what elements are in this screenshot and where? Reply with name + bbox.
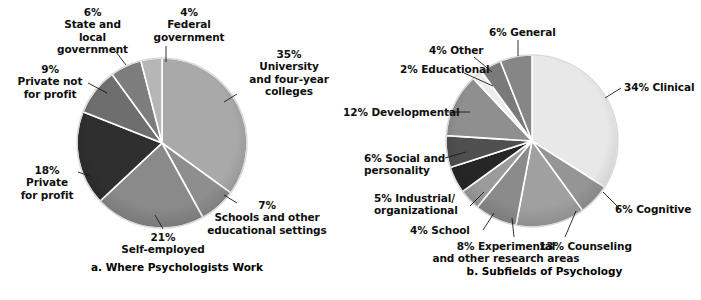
label-schools-educational-settings: 7% Schools and other educational setting… <box>193 199 341 236</box>
label-federal-government: 4% Federal government <box>143 6 235 43</box>
label-other: 4% Other <box>429 44 509 56</box>
label-school: 4% School <box>410 224 490 236</box>
label-state-local-government: 6% State and local government <box>35 6 150 56</box>
label-university-four-year-colleges: 35% University and four-year colleges <box>233 48 345 98</box>
caption-subfields-of-psychology: b. Subfields of Psychology <box>452 265 637 277</box>
label-private-not-for-profit: 9% Private not for profit <box>2 63 98 100</box>
label-industrial-organizational: 5% Industrial/ organizational <box>374 192 478 217</box>
label-educational: 2% Educational <box>400 63 510 75</box>
label-social-and-personality: 6% Social and personality <box>364 152 470 177</box>
label-general: 6% General <box>489 26 579 38</box>
caption-where-psychologists-work: a. Where Psychologists Work <box>82 261 272 273</box>
label-private-for-profit: 18% Private for profit <box>6 164 88 201</box>
label-clinical: 34% Clinical <box>624 81 701 93</box>
label-cognitive: 6% Cognitive <box>615 203 701 215</box>
label-counseling: 13% Counseling <box>539 240 649 252</box>
leader-line <box>605 88 621 98</box>
pie-chart-figure: 6% State and local government 4% Federal… <box>0 0 701 300</box>
label-developmental: 12% Developmental <box>343 106 467 118</box>
